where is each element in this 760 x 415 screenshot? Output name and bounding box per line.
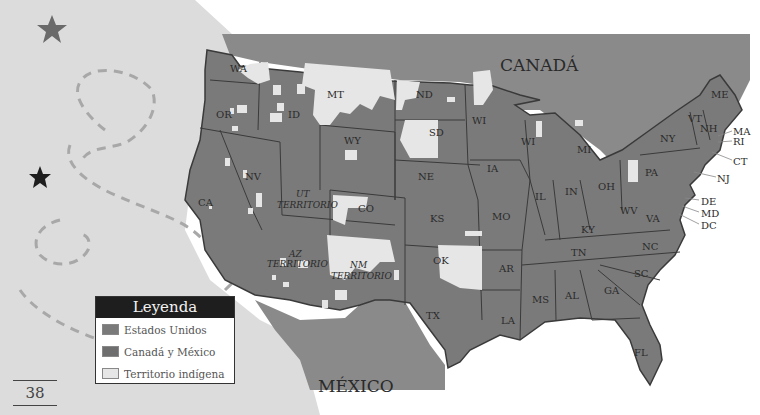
territory-sub: TERRITORIO [267,259,328,269]
state-label: NY [660,133,676,144]
state-label: OH [598,181,615,192]
state-label: WI [472,115,486,126]
state-label: ND [416,89,433,100]
legend-item: Estados Unidos [96,319,234,340]
state-label: NC [642,241,659,252]
map-legend: Leyenda Estados Unidos Canadá y México T… [95,296,235,384]
page-number: 38 [13,380,57,406]
canada-label: CANADÁ [500,55,579,75]
state-label: ME [711,89,729,100]
territory-abbr: AZ [288,249,302,259]
state-label: ID [288,109,300,120]
state-label: NE [418,171,434,182]
legend-label: Estados Unidos [124,324,207,336]
state-label: MO [492,211,510,222]
territory-abbr: NM [349,260,368,270]
legend-item: Territorio indígena [96,363,234,384]
state-label: TN [571,247,587,258]
state-label: SC [634,268,649,279]
state-label: IA [487,163,499,174]
legend-swatch-canada-mexico [102,346,119,357]
state-label: AR [498,263,514,274]
state-label: PA [645,167,659,178]
state-label: CA [198,197,214,208]
state-label: WV [620,205,638,216]
territory-sub: TERRITORIO [331,271,392,281]
state-label: SD [429,127,444,138]
state-label: FL [634,347,648,358]
state-label: WI [521,136,535,147]
state-label: OR [216,109,232,120]
legend-title: Leyenda [96,297,234,318]
state-label: IL [535,191,546,202]
legend-item: Canadá y México [96,341,234,362]
state-label: DE [701,196,716,207]
state-label: VA [645,213,661,224]
state-label: NJ [717,173,730,184]
state-label: LA [501,315,516,326]
state-label: AL [564,290,579,301]
state-label: WA [230,63,248,74]
state-label: MS [532,294,549,305]
state-label: MI [577,144,591,155]
map-page: CANADÁ MÉXICO WA OR ID MT WY ND SD WI WI… [0,0,760,415]
state-label: MD [701,208,719,219]
state-label: NH [700,123,718,134]
state-label: KS [430,213,444,224]
state-label: IN [565,186,578,197]
state-label: MT [327,89,344,100]
state-label: OK [433,255,449,266]
state-label: DC [701,220,717,231]
state-label: TX [426,310,441,321]
state-label: KY [581,224,595,235]
legend-swatch-indigenous-territory [102,368,119,379]
legend-label: Canadá y México [124,346,215,358]
state-label: WY [344,135,361,146]
state-label: CT [733,156,748,167]
state-label: GA [604,285,620,296]
legend-label: Territorio indígena [124,368,225,380]
legend-swatch-united-states [102,324,119,335]
mexico-label: MÉXICO [318,376,394,396]
territory-sub: TERRITORIO [277,200,338,210]
territory-abbr: UT [296,189,311,199]
state-label: NV [245,171,262,182]
state-label: CO [358,203,374,214]
state-label: RI [733,136,745,147]
